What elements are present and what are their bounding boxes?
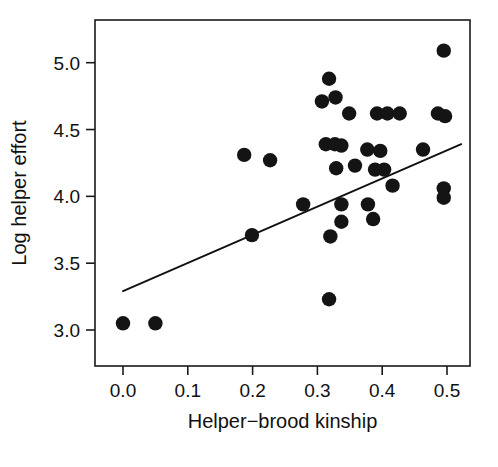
data-point (334, 215, 348, 229)
y-tick-label: 3.0 (54, 320, 80, 341)
data-point (373, 144, 387, 158)
plot-frame (95, 20, 470, 366)
regression-line (123, 144, 461, 291)
data-point (237, 148, 251, 162)
data-point (322, 292, 336, 306)
y-tick-label: 5.0 (54, 53, 80, 74)
data-point (437, 190, 451, 204)
x-tick-label: 0.0 (110, 380, 136, 401)
data-point (334, 138, 348, 152)
x-tick-label: 0.2 (239, 380, 265, 401)
x-tick-label: 0.4 (369, 380, 396, 401)
data-point (116, 316, 130, 330)
scatter-plot-figure: 0.00.10.20.30.40.53.03.54.04.55.0Helper−… (0, 0, 498, 467)
data-point (416, 142, 430, 156)
y-tick-label: 4.5 (54, 120, 80, 141)
y-tick-label: 4.0 (54, 186, 80, 207)
data-point (148, 316, 162, 330)
data-point (245, 228, 259, 242)
data-point (348, 158, 362, 172)
x-tick-label: 0.3 (304, 380, 330, 401)
data-point (322, 72, 336, 86)
data-point (328, 90, 342, 104)
data-point (385, 178, 399, 192)
data-point (360, 142, 374, 156)
x-tick-label: 0.1 (175, 380, 201, 401)
data-point (342, 106, 356, 120)
data-point (380, 106, 394, 120)
data-point (263, 153, 277, 167)
data-point (392, 106, 406, 120)
data-point (329, 161, 343, 175)
x-axis-title: Helper−brood kinship (188, 410, 378, 432)
data-point (366, 212, 380, 226)
data-point (377, 162, 391, 176)
plot-canvas: 0.00.10.20.30.40.53.03.54.04.55.0Helper−… (0, 0, 498, 467)
y-tick-label: 3.5 (54, 253, 80, 274)
y-axis-title: Log helper effort (8, 120, 30, 266)
data-point (323, 229, 337, 243)
data-point (334, 197, 348, 211)
data-point (315, 94, 329, 108)
data-point (438, 109, 452, 123)
data-point (296, 197, 310, 211)
data-point (361, 197, 375, 211)
data-point (437, 43, 451, 57)
x-tick-label: 0.5 (434, 380, 460, 401)
